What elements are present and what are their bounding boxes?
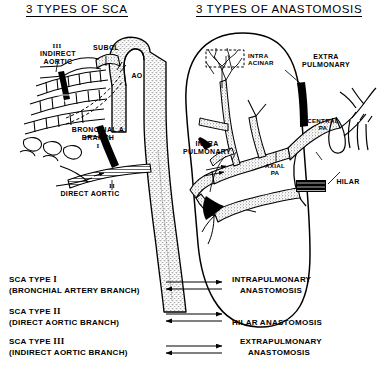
label-subclavian: SUBCL — [84, 44, 128, 52]
legend-sca-label: SCA TYPE I (BRONCHIAL ARTERY BRANCH) — [9, 274, 159, 296]
legend-anast-line2: ANASTOMOSIS — [240, 347, 379, 358]
label-hilar: HILAR — [330, 178, 366, 186]
legend-sca-prefix: SCA TYPE — [9, 337, 53, 346]
legend-anast-line2: ANASTOMOSIS — [232, 285, 378, 296]
label-extra-pulmonary-line2: PULMONARY — [290, 61, 362, 69]
label-central-pa-line2: PA — [300, 124, 346, 131]
legend-sca-label: SCA TYPE III (INDIRECT AORTIC BRANCH) — [9, 336, 159, 358]
label-intra-pulmonary-line2: PULMONARY — [172, 148, 242, 156]
legend-anast-line1: INTRAPULMONARY — [232, 274, 378, 285]
diagram-canvas: 3 TYPES OF SCA 3 TYPES OF ANASTOMOSIS — [0, 0, 379, 376]
legend-sca-numeral: I — [53, 274, 57, 284]
legend-table: SCA TYPE I (BRONCHIAL ARTERY BRANCH) INT… — [0, 272, 379, 376]
legend-sca-prefix: SCA TYPE — [9, 275, 53, 284]
legend-sca-detail: (BRONCHIAL ARTERY BRANCH) — [9, 285, 159, 296]
legend-sca-numeral: II — [53, 306, 61, 316]
label-sca2-numeral: II — [86, 182, 138, 190]
hilar-anastomosis-vessel — [296, 180, 326, 192]
label-sca1-numeral: I — [60, 142, 136, 150]
legend-anastomosis-label: EXTRAPULMONARY ANASTOMOSIS — [240, 336, 379, 358]
legend-row: SCA TYPE II (DIRECT AORTIC BRANCH) HILAR… — [0, 306, 379, 336]
label-axial-pa-line2: PA — [254, 169, 296, 176]
legend-sca-label: SCA TYPE II (DIRECT AORTIC BRANCH) — [9, 306, 159, 328]
label-intra-pulmonary-line1: INTRA — [178, 140, 236, 148]
legend-sca-numeral: III — [53, 336, 64, 346]
label-aorta: AO — [124, 72, 150, 80]
label-direct-aortic: DIRECT AORTIC — [34, 190, 146, 198]
label-bronchial-artery-line1: BRONCHIAL A — [60, 126, 136, 134]
legend-sca-detail: (INDIRECT AORTIC BRANCH) — [9, 347, 159, 358]
label-indirect-aortic-line2: AORTIC — [34, 58, 82, 66]
legend-sca-detail: (DIRECT AORTIC BRANCH) — [9, 317, 159, 328]
label-bronchial-artery-line2: BRANCH — [60, 134, 136, 142]
label-sca3-numeral: III — [42, 42, 72, 50]
legend-anast-line1: HILAR ANASTOMOSIS — [232, 317, 378, 328]
legend-row: SCA TYPE III (INDIRECT AORTIC BRANCH) EX… — [0, 336, 379, 366]
legend-anastomosis-label: HILAR ANASTOMOSIS — [232, 317, 378, 328]
legend-sca-prefix: SCA TYPE — [9, 307, 53, 316]
label-intra-acinar-line2: ACINAR — [248, 59, 288, 66]
legend-anast-line1: EXTRAPULMONARY — [240, 336, 379, 347]
label-indirect-aortic-line1: INDIRECT — [34, 50, 82, 58]
label-extra-pulmonary-line1: EXTRA — [290, 53, 362, 61]
legend-anastomosis-label: INTRAPULMONARY ANASTOMOSIS — [232, 274, 378, 296]
legend-row: SCA TYPE I (BRONCHIAL ARTERY BRANCH) INT… — [0, 274, 379, 304]
